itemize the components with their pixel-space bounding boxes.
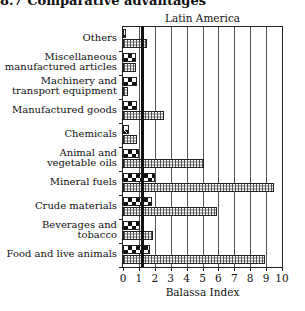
bar-1995-1999 — [123, 77, 137, 86]
x-tick-label: 8 — [247, 272, 254, 284]
grid-line — [234, 27, 235, 267]
y-tick — [119, 123, 123, 124]
y-tick — [119, 75, 123, 76]
x-tick — [171, 267, 172, 271]
bar-1970-1974 — [123, 87, 128, 96]
category-label: Mineral fuels — [50, 177, 117, 187]
x-tick-label: 4 — [183, 272, 190, 284]
x-tick — [187, 267, 188, 271]
reference-line — [141, 27, 144, 267]
x-tick-label: 3 — [167, 272, 174, 284]
x-axis-title: Balassa Index — [122, 286, 283, 298]
x-tick — [282, 267, 283, 271]
category-label: Others — [83, 33, 118, 43]
y-tick — [119, 195, 123, 196]
x-tick — [218, 267, 219, 271]
x-tick-label: 5 — [199, 272, 206, 284]
x-tick — [234, 267, 235, 271]
x-tick-label: 7 — [231, 272, 238, 284]
grid-line — [187, 27, 188, 267]
x-tick — [250, 267, 251, 271]
bar-1970-1974 — [123, 183, 274, 192]
category-label: Machinery andtransport equipment — [12, 76, 117, 96]
category-label: Manufactured goods — [12, 105, 117, 115]
plot-area: 1995–1999 1970–1974 — [122, 26, 283, 268]
y-tick — [119, 219, 123, 220]
bar-1995-1999 — [123, 245, 150, 254]
category-label: Food and live animals — [6, 249, 117, 259]
y-tick — [119, 51, 123, 52]
bar-1995-1999 — [123, 197, 152, 206]
grid-line — [218, 27, 219, 267]
x-tick — [123, 267, 124, 271]
bar-1970-1974 — [123, 159, 204, 168]
category-label: Crude materials — [35, 201, 117, 211]
bar-1970-1974 — [123, 255, 265, 264]
bar-1995-1999 — [123, 53, 136, 62]
x-tick-label: 9 — [263, 272, 270, 284]
bar-1995-1999 — [123, 125, 129, 134]
grid-line — [203, 27, 204, 267]
chart-title: Latin America — [122, 12, 283, 24]
y-tick — [119, 171, 123, 172]
y-tick — [119, 147, 123, 148]
y-tick — [119, 99, 123, 100]
bar-1995-1999 — [123, 101, 137, 110]
x-tick — [203, 267, 204, 271]
bar-1995-1999 — [123, 173, 155, 182]
grid-line — [155, 27, 156, 267]
category-label: Animal andvegetable oils — [47, 148, 117, 168]
bar-1970-1974 — [123, 135, 137, 144]
bar-1970-1974 — [123, 231, 153, 240]
bar-1995-1999 — [123, 221, 140, 230]
bar-1970-1974 — [123, 63, 136, 72]
grid-line — [266, 27, 267, 267]
x-tick — [139, 267, 140, 271]
category-label: Chemicals — [64, 129, 117, 139]
grid-line — [171, 27, 172, 267]
x-tick-label: 10 — [275, 272, 288, 284]
figure-title: 8.7 Comparative advantages — [0, 0, 206, 8]
category-label: Beverages andtobacco — [42, 220, 117, 240]
y-tick — [119, 243, 123, 244]
x-tick — [155, 267, 156, 271]
x-tick-label: 1 — [136, 272, 143, 284]
x-tick-label: 2 — [151, 272, 158, 284]
x-tick-label: 0 — [120, 272, 127, 284]
x-tick — [266, 267, 267, 271]
grid-line — [250, 27, 251, 267]
bar-1995-1999 — [123, 29, 126, 38]
bar-1970-1974 — [123, 207, 217, 216]
bar-1995-1999 — [123, 149, 139, 158]
x-tick-label: 6 — [215, 272, 222, 284]
category-label: Miscellaneousmanufactured articles — [5, 52, 117, 72]
